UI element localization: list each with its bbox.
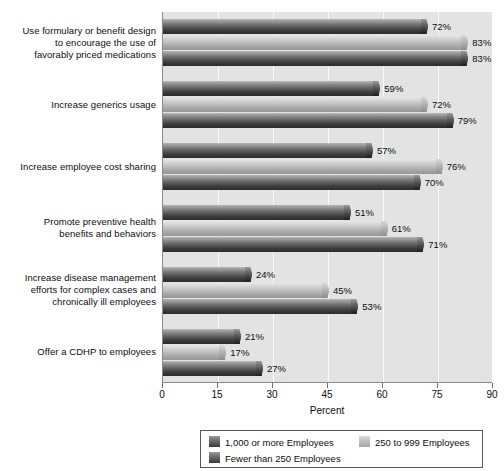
category-label: Use formulary or benefit designto encour…	[0, 25, 156, 61]
bar	[163, 35, 467, 50]
bar-body	[163, 81, 379, 96]
bar-body	[163, 361, 262, 376]
bar-end-cap	[381, 221, 388, 236]
bar-body	[163, 175, 420, 190]
bar-end-cap	[436, 159, 443, 174]
legend-label: Fewer than 250 Employees	[225, 453, 341, 464]
gridline	[273, 12, 274, 382]
legend-item[interactable]: 250 to 999 Employees	[359, 436, 470, 450]
bar	[163, 345, 225, 360]
bar	[163, 283, 328, 298]
bar-value-label: 83%	[472, 51, 491, 66]
bar-value-label: 70%	[425, 175, 444, 190]
x-tick-label: 90	[486, 389, 497, 400]
category-label: Increase generics usage	[0, 99, 156, 111]
bar	[163, 143, 372, 158]
x-tick-label: 30	[266, 389, 277, 400]
bar	[163, 97, 427, 112]
bar-value-label: 71%	[428, 237, 447, 252]
bar-value-label: 24%	[256, 267, 275, 282]
category-label-line: Offer a CDHP to employees	[0, 346, 156, 358]
category-axis-labels: Use formulary or benefit designto encour…	[0, 12, 156, 383]
bar-body	[163, 299, 357, 314]
legend-label: 1,000 or more Employees	[225, 437, 334, 448]
bar-value-label: 57%	[377, 143, 396, 158]
bar-value-label: 17%	[230, 345, 249, 360]
bar	[163, 113, 453, 128]
bar-value-label: 21%	[245, 329, 264, 344]
x-tick-mark	[382, 383, 383, 388]
category-label-line: Increase employee cost sharing	[0, 161, 156, 173]
bar	[163, 51, 467, 66]
grouped-bar-chart: 72%83%83%59%72%79%57%76%70%51%61%71%24%4…	[0, 0, 504, 471]
category-label-line: chronically ill employees	[0, 296, 156, 308]
x-tick-mark	[327, 383, 328, 388]
bar-end-cap	[366, 143, 373, 158]
bar-body	[163, 237, 423, 252]
x-tick-label: 15	[211, 389, 222, 400]
x-tick-mark	[217, 383, 218, 388]
bar-value-label: 72%	[432, 97, 451, 112]
x-tick-mark	[437, 383, 438, 388]
bar-value-label: 45%	[333, 283, 352, 298]
category-label-line: Use formulary or benefit design	[0, 25, 156, 37]
category-label: Increase employee cost sharing	[0, 161, 156, 173]
bar-value-label: 61%	[392, 221, 411, 236]
x-tick-mark	[272, 383, 273, 388]
bar-body	[163, 267, 251, 282]
bar	[163, 81, 379, 96]
bar	[163, 19, 427, 34]
bar-body	[163, 51, 467, 66]
category-label: Promote preventive healthbenefits and be…	[0, 216, 156, 240]
bar	[163, 159, 442, 174]
bar	[163, 361, 262, 376]
legend-label: 250 to 999 Employees	[375, 437, 470, 448]
x-tick-label: 45	[321, 389, 332, 400]
x-tick-label: 60	[376, 389, 387, 400]
category-label-line: to encourage the use of	[0, 37, 156, 49]
bar-value-label: 72%	[432, 19, 451, 34]
category-label-line: Increase generics usage	[0, 99, 156, 111]
bar-end-cap	[322, 283, 329, 298]
bar-end-cap	[344, 205, 351, 220]
bar-body	[163, 329, 240, 344]
bar-end-cap	[256, 361, 263, 376]
x-axis-title: Percent	[162, 405, 492, 416]
bar-end-cap	[245, 267, 252, 282]
bar	[163, 205, 350, 220]
gridline	[383, 12, 384, 382]
gridline	[493, 12, 494, 382]
bar-body	[163, 113, 453, 128]
plot-area: 72%83%83%59%72%79%57%76%70%51%61%71%24%4…	[162, 12, 492, 383]
bar-value-label: 51%	[355, 205, 374, 220]
legend-item[interactable]: Fewer than 250 Employees	[209, 452, 341, 466]
gridline	[438, 12, 439, 382]
category-label-line: benefits and behaviors	[0, 228, 156, 240]
x-tick-mark	[492, 383, 493, 388]
bar	[163, 237, 423, 252]
x-tick-label: 0	[159, 389, 165, 400]
bar-value-label: 79%	[458, 113, 477, 128]
category-label-line: Increase disease management	[0, 272, 156, 284]
legend-swatch-icon	[209, 452, 220, 463]
legend-item[interactable]: 1,000 or more Employees	[209, 436, 334, 450]
bar-body	[163, 19, 427, 34]
bar	[163, 329, 240, 344]
legend: 1,000 or more Employees250 to 999 Employ…	[200, 430, 483, 468]
bar-value-label: 59%	[384, 81, 403, 96]
bar-end-cap	[414, 175, 421, 190]
bar-value-label: 76%	[447, 159, 466, 174]
category-label-line: favorably priced medications	[0, 49, 156, 61]
bar-body	[163, 221, 387, 236]
x-tick-mark	[162, 383, 163, 388]
bar-value-label: 27%	[267, 361, 286, 376]
legend-swatch-icon	[359, 436, 370, 447]
bar-body	[163, 283, 328, 298]
bar-body	[163, 159, 442, 174]
category-label-line: Promote preventive health	[0, 216, 156, 228]
x-tick-label: 75	[431, 389, 442, 400]
gridline	[328, 12, 329, 382]
category-label-line: efforts for complex cases and	[0, 284, 156, 296]
bar	[163, 175, 420, 190]
bar-body	[163, 35, 467, 50]
